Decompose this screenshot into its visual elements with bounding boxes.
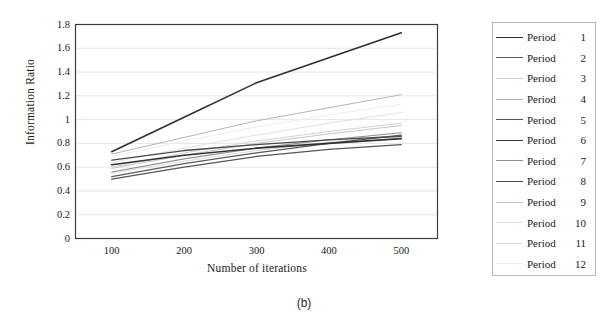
legend-item-label: Period [527, 196, 556, 208]
legend-swatch-icon [496, 181, 523, 182]
legend-swatch-icon [496, 57, 523, 58]
legend-item-label: Period [527, 134, 556, 146]
legend-item-number: 1 [570, 31, 595, 43]
legend-item-period-11[interactable]: Period11 [493, 233, 595, 254]
legend-swatch-icon [496, 37, 523, 38]
legend-swatch-icon [496, 222, 523, 223]
legend-item-label: Period [527, 155, 556, 167]
legend-swatch-icon [496, 243, 523, 244]
legend-item-number: 5 [570, 114, 595, 126]
x-tick-label: 400 [304, 245, 354, 256]
legend-item-label: Period [527, 93, 556, 105]
legend-item-label: Period [527, 217, 556, 229]
legend-item-number: 10 [570, 217, 595, 229]
legend-swatch-icon [496, 119, 523, 120]
legend-item-number: 9 [570, 196, 595, 208]
legend-swatch-icon [496, 99, 523, 100]
legend-item-label: Period [527, 175, 556, 187]
legend-item-label: Period [527, 258, 556, 270]
legend-item-number: 3 [570, 72, 595, 84]
figure: 00.20.40.60.811.21.41.61.8 1002003004005… [0, 0, 608, 325]
legend-item-period-8[interactable]: Period8 [493, 171, 595, 192]
legend-item-period-9[interactable]: Period9 [493, 192, 595, 213]
legend-item-number: 12 [570, 258, 595, 270]
x-tick-label: 300 [232, 245, 282, 256]
legend-swatch-icon [496, 78, 523, 79]
legend-item-period-3[interactable]: Period3 [493, 68, 595, 89]
x-tick-label: 200 [159, 245, 209, 256]
x-tick-label: 100 [87, 245, 137, 256]
legend-item-period-6[interactable]: Period6 [493, 130, 595, 151]
legend-swatch-icon [496, 140, 523, 141]
x-axis-title: Number of iterations [75, 262, 439, 274]
legend-item-period-4[interactable]: Period4 [493, 89, 595, 110]
legend-item-number: 4 [570, 93, 595, 105]
legend-item-number: 8 [570, 175, 595, 187]
figure-caption: (b) [0, 296, 608, 310]
chart-legend: Period1Period2Period3Period4Period5Perio… [492, 22, 596, 276]
legend-item-label: Period [527, 114, 556, 126]
legend-item-period-1[interactable]: Period1 [493, 27, 595, 48]
legend-item-period-7[interactable]: Period7 [493, 151, 595, 172]
legend-item-number: 7 [570, 155, 595, 167]
legend-item-label: Period [527, 52, 556, 64]
legend-item-label: Period [527, 237, 556, 249]
legend-item-number: 11 [570, 237, 595, 249]
y-axis-title: Information Ratio [24, 28, 36, 176]
x-axis-tick-labels: 100200300400500 [0, 0, 470, 290]
legend-swatch-icon [496, 202, 523, 203]
legend-item-label: Period [527, 31, 556, 43]
legend-item-period-5[interactable]: Period5 [493, 109, 595, 130]
legend-swatch-icon [496, 263, 523, 264]
legend-item-label: Period [527, 72, 556, 84]
legend-item-number: 6 [570, 134, 595, 146]
legend-item-period-10[interactable]: Period10 [493, 212, 595, 233]
legend-item-period-2[interactable]: Period2 [493, 48, 595, 69]
x-tick-label: 500 [376, 245, 426, 256]
legend-item-number: 2 [570, 52, 595, 64]
chart-plot-area: 00.20.40.60.811.21.41.61.8 1002003004005… [0, 0, 470, 290]
legend-item-period-12[interactable]: Period12 [493, 254, 595, 275]
legend-swatch-icon [496, 160, 523, 161]
